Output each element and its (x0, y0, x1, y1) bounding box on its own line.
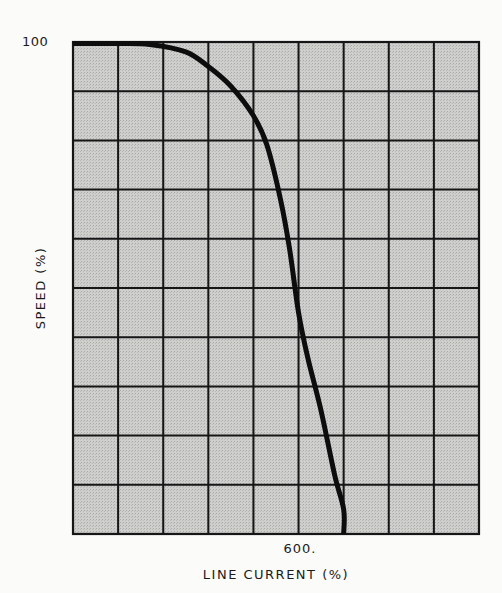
x-axis-label: LINE CURRENT (%) (73, 567, 479, 582)
chart-plot (0, 0, 502, 593)
x-tick-label-600: 600. (270, 541, 330, 556)
y-axis-label: SPEED (%) (33, 247, 48, 330)
y-tick-label-100: 100 (22, 34, 48, 49)
